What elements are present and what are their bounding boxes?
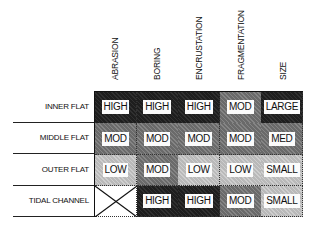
grid-cell: LOW — [178, 155, 220, 187]
column-header-boring: BORING — [136, 0, 178, 90]
grid-cell: MOD — [220, 123, 262, 155]
value-badge: MOD — [102, 132, 128, 146]
value-badge: MOD — [227, 100, 253, 114]
column-header-label: FRAGMENTATION — [236, 10, 246, 80]
grid-cell: LOW — [95, 155, 137, 187]
value-badge: LOW — [186, 163, 212, 177]
grid-cell: LOW — [220, 155, 262, 187]
value-badge: LOW — [227, 163, 253, 177]
row-label: OUTER FLAT — [0, 165, 89, 174]
grid-cell: MOD — [178, 123, 220, 155]
attribute-grid: HIGHHIGHHIGHMODLARGEMODMODMODMODMEDLOWMO… — [94, 91, 303, 217]
grid-cell: HIGH — [178, 186, 220, 218]
grid-cell: SMALL — [261, 186, 303, 218]
value-badge: MOD — [227, 194, 253, 208]
column-header-size: SIZE — [262, 0, 304, 90]
value-badge: HIGH — [185, 194, 213, 208]
grid-cell: MOD — [95, 123, 137, 155]
grid-cell: MOD — [220, 186, 262, 218]
column-header-abrasion: ABRASION — [94, 0, 136, 90]
value-badge: SMALL — [264, 194, 299, 208]
x-cross-icon — [95, 186, 137, 217]
column-header-fragmentation: FRAGMENTATION — [220, 0, 262, 90]
grid-cell: MOD — [220, 92, 262, 124]
value-badge: MED — [269, 132, 294, 146]
row-divider — [13, 185, 94, 186]
grid-cell: SMALL — [261, 155, 303, 187]
grid-cell: HIGH — [178, 92, 220, 124]
value-badge: HIGH — [185, 100, 213, 114]
column-header-label: ENCRUSTATION — [194, 17, 204, 80]
value-badge: MOD — [185, 132, 211, 146]
column-header-encrustation: ENCRUSTATION — [178, 0, 220, 90]
column-header-label: SIZE — [278, 62, 288, 80]
value-badge: HIGH — [102, 100, 130, 114]
row-divider — [13, 216, 94, 217]
value-badge: HIGH — [143, 100, 171, 114]
column-header-label: ABRASION — [110, 38, 120, 80]
grid-cell: MOD — [137, 123, 179, 155]
value-badge: LOW — [103, 163, 129, 177]
row-divider — [13, 153, 94, 154]
value-badge: MOD — [144, 163, 170, 177]
grid-cell: MOD — [137, 155, 179, 187]
grid-cell: HIGH — [137, 92, 179, 124]
grid-cell: LARGE — [261, 92, 303, 124]
value-badge: MOD — [227, 132, 253, 146]
value-badge: SMALL — [264, 163, 299, 177]
row-label: INNER FLAT — [0, 102, 89, 111]
grid-cell: MED — [261, 123, 303, 155]
column-header-label: BORING — [152, 48, 162, 80]
value-badge: LARGE — [264, 100, 300, 114]
row-divider — [13, 122, 94, 123]
value-badge: HIGH — [143, 194, 171, 208]
row-label: MIDDLE FLAT — [0, 133, 89, 142]
grid-cell — [95, 186, 137, 218]
row-label: TIDAL CHANNEL — [0, 196, 89, 205]
grid-cell: HIGH — [95, 92, 137, 124]
value-badge: MOD — [144, 132, 170, 146]
grid-cell: HIGH — [137, 186, 179, 218]
